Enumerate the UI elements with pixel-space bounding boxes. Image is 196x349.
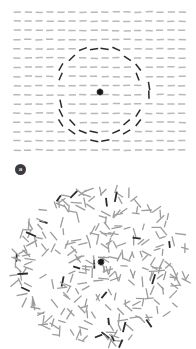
contour-element xyxy=(123,120,129,125)
cloud-element xyxy=(156,245,164,248)
cloud-element xyxy=(74,296,82,303)
cloud-element xyxy=(67,309,74,317)
cloud-element xyxy=(60,217,63,227)
cloud-element xyxy=(51,243,55,252)
cloud-element xyxy=(132,213,140,214)
cloud-element xyxy=(154,248,161,250)
cloud-element xyxy=(57,287,67,288)
cloud-element xyxy=(38,324,48,325)
contour-element xyxy=(136,119,141,126)
cloud-element xyxy=(63,228,64,235)
cloud-element xyxy=(69,258,78,263)
cloud-element xyxy=(130,317,138,318)
contour-element xyxy=(68,129,75,134)
contour-element xyxy=(136,73,139,81)
cloud-element xyxy=(109,271,115,277)
cloud-element-dark xyxy=(101,292,106,298)
cloud-element xyxy=(133,271,135,278)
cloud-element xyxy=(130,196,137,201)
cloud-element xyxy=(116,272,119,281)
cloud-element xyxy=(82,286,90,290)
cloud-element xyxy=(108,289,112,295)
cloud-element xyxy=(39,274,46,278)
cloud-element-dark xyxy=(26,232,36,236)
cloud-element xyxy=(86,265,87,272)
cloud-element xyxy=(118,324,121,330)
cloud-element xyxy=(101,211,110,216)
cloud-element xyxy=(24,283,32,287)
cloud-element xyxy=(37,224,42,230)
cloud-element xyxy=(32,298,33,307)
contour-element xyxy=(90,131,98,133)
cloud-element-dark xyxy=(21,287,30,291)
cloud-element xyxy=(132,301,140,305)
cloud-element xyxy=(16,266,22,272)
cloud-element xyxy=(172,236,175,246)
cloud-element xyxy=(84,188,93,191)
cloud-element xyxy=(76,205,86,210)
cloud-element xyxy=(124,301,130,304)
cloud-element xyxy=(104,222,110,230)
cloud-element xyxy=(167,213,168,220)
cloud-element xyxy=(145,298,154,299)
contour-element xyxy=(123,130,130,134)
panel-b-stimulus-canvas xyxy=(0,180,196,349)
cloud-element xyxy=(142,224,144,231)
cloud-element xyxy=(161,227,167,235)
cloud-element xyxy=(80,329,81,336)
contour-element xyxy=(58,119,62,126)
contour-element xyxy=(148,82,149,90)
cloud-element-dark xyxy=(133,238,141,239)
cloud-element xyxy=(101,233,111,234)
cloud-element xyxy=(42,249,49,257)
cloud-element xyxy=(45,315,53,322)
cloud-element xyxy=(89,241,91,248)
cloud-element xyxy=(39,209,47,210)
cloud-element xyxy=(50,232,57,240)
cloud-element xyxy=(163,311,171,316)
contour-element xyxy=(112,130,120,133)
cloud-element xyxy=(142,298,144,306)
cloud-element xyxy=(52,334,59,335)
cloud-element xyxy=(150,258,155,266)
cloud-element xyxy=(87,310,88,318)
contour-element xyxy=(124,56,131,61)
cloud-element xyxy=(51,299,58,308)
panel-b-center-marker xyxy=(98,259,105,265)
cloud-element-dark xyxy=(106,198,107,207)
cloud-element xyxy=(76,256,84,258)
cloud-element xyxy=(76,212,79,223)
cloud-element xyxy=(98,278,109,279)
cloud-element xyxy=(95,223,99,231)
cloud-element xyxy=(169,290,177,298)
cloud-element xyxy=(162,249,163,256)
cloud-element xyxy=(22,298,27,308)
contour-element xyxy=(69,55,75,61)
cloud-element xyxy=(147,204,151,213)
cloud-element xyxy=(114,293,116,301)
cloud-element xyxy=(120,266,127,267)
cloud-element xyxy=(117,308,124,315)
cloud-element-dark xyxy=(108,318,109,325)
cloud-element xyxy=(129,252,132,260)
cloud-element xyxy=(42,232,46,239)
cloud-element xyxy=(61,195,70,197)
cloud-element xyxy=(162,287,163,295)
cloud-element xyxy=(67,286,71,293)
panel-a-badge: a xyxy=(15,164,26,175)
cloud-element xyxy=(17,294,28,296)
cloud-element xyxy=(49,323,58,329)
cloud-element xyxy=(58,320,66,322)
panel-b: b xyxy=(0,180,196,349)
cloud-element xyxy=(61,308,65,315)
contour-element xyxy=(90,140,98,142)
cloud-element xyxy=(70,274,73,283)
cloud-element xyxy=(109,257,119,259)
panel-a-stimulus-canvas xyxy=(0,0,196,180)
contour-element xyxy=(101,140,109,142)
contour-element xyxy=(136,64,141,70)
cloud-element xyxy=(128,335,132,341)
contour-element xyxy=(136,110,140,117)
cloud-element xyxy=(71,239,81,241)
cloud-element xyxy=(124,227,131,229)
